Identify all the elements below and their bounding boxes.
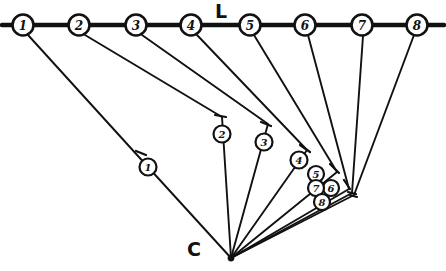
- ray-group: [28, 35, 414, 261]
- ray-marker-label-3: 3: [261, 137, 268, 148]
- ray-3: [142, 35, 268, 258]
- ray-2: [85, 35, 231, 258]
- line-node-label-6: 6: [301, 19, 310, 33]
- line-node-label-5: 5: [246, 19, 254, 33]
- ray-marker-label-2: 2: [218, 129, 226, 140]
- geometry-diagram: 12345678 12345678 LC: [0, 0, 446, 271]
- line-node-label-2: 2: [74, 19, 83, 33]
- line-node-label-4: 4: [187, 19, 195, 33]
- line-node-label-7: 7: [358, 19, 367, 33]
- label-C: C: [187, 238, 201, 260]
- line-node-4: 4: [181, 15, 202, 36]
- ray-6: [231, 35, 349, 258]
- line-node-7: 7: [352, 15, 373, 36]
- ray-marker-label-7: 7: [313, 183, 320, 194]
- ray-tick-5: [330, 164, 339, 173]
- ray-marker-label-6: 6: [328, 183, 335, 194]
- ray-marker-group: 12345678: [140, 126, 340, 211]
- line-node-2: 2: [69, 15, 90, 36]
- line-node-label-1: 1: [19, 19, 27, 33]
- ray-marker-label-8: 8: [319, 197, 326, 208]
- ray-marker-label-5: 5: [313, 169, 320, 180]
- ray-marker-1: 1: [140, 159, 157, 176]
- line-node-5: 5: [240, 15, 261, 36]
- ray-marker-4: 4: [291, 152, 308, 169]
- line-node-label-8: 8: [413, 19, 422, 33]
- ray-marker-label-4: 4: [296, 155, 303, 166]
- ray-marker-8: 8: [314, 194, 330, 210]
- line-node-1: 1: [13, 15, 34, 36]
- figure-canvas: 12345678 12345678 LC: [0, 0, 446, 271]
- line-node-8: 8: [407, 15, 428, 36]
- ray-marker-label-1: 1: [145, 162, 152, 173]
- ray-tick-2: [215, 115, 226, 117]
- line-node-label-3: 3: [132, 19, 140, 33]
- ray-marker-2: 2: [214, 126, 231, 143]
- ray-4: [197, 35, 307, 258]
- line-node-6: 6: [295, 15, 316, 36]
- ray-1: [28, 35, 231, 258]
- label-L: L: [215, 0, 227, 22]
- apex-point-C: [228, 255, 235, 262]
- ray-marker-3: 3: [256, 134, 273, 151]
- ray-5: [231, 35, 337, 258]
- line-node-3: 3: [126, 15, 147, 36]
